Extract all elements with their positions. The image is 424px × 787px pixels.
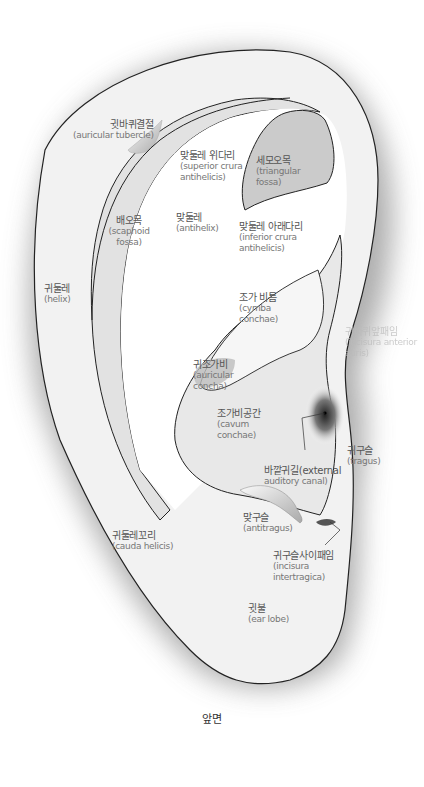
label-incisura-anterior-auris: 귀바퀴앞패임 (incisura anterior auris)	[345, 326, 423, 359]
label-antitragus: 맞구슬 (antitragus)	[243, 512, 293, 534]
caption-front-view: 앞면	[0, 710, 424, 726]
external-auditory-canal-shading	[305, 385, 345, 445]
label-auricular-concha: 귀조가비 (auricular concha)	[193, 359, 238, 392]
label-helix: 귀둘레 (helix)	[44, 283, 71, 305]
label-incisura-intertragica: 귀구슬사이패임 (incisura intertragica)	[273, 550, 338, 583]
label-auricular-tubercle: 귓바퀴결절 (auricular tubercle)	[73, 119, 154, 141]
label-cavum-conchae: 조가비공간 (cavum conchae)	[217, 408, 262, 441]
label-triangular-fossa: 세모오목 (triangular fossa)	[256, 155, 301, 188]
label-cymba-conchae: 조가 비틈 (cymba conchae)	[239, 292, 284, 325]
label-external-auditory-canal: 바깥귀길(external auditory canal)	[264, 465, 341, 487]
label-tragus: 귀구슬 (tragus)	[347, 445, 380, 467]
ear-anatomy-diagram: 귓바퀴결절 (auricular tubercle) 맞둘레 위다리 (supe…	[0, 0, 424, 787]
label-superior-crura-antihelicis: 맞둘레 위다리 (superior crura antihelicis)	[180, 150, 250, 183]
ear-illustration	[0, 0, 424, 787]
label-antihelix: 맞둘레 (antihelix)	[176, 212, 219, 234]
label-scaphoid-fossa: 배오목 (scaphoid fossa)	[108, 215, 150, 248]
label-ear-lobe: 귓불 (ear lobe)	[248, 603, 289, 625]
label-cauda-helicis: 귀둘레꼬리 (cauda helicis)	[112, 530, 173, 552]
label-inferior-crura-antihelicis: 맞둘레 아래다리 (inferior crura antihelicis)	[239, 221, 319, 254]
